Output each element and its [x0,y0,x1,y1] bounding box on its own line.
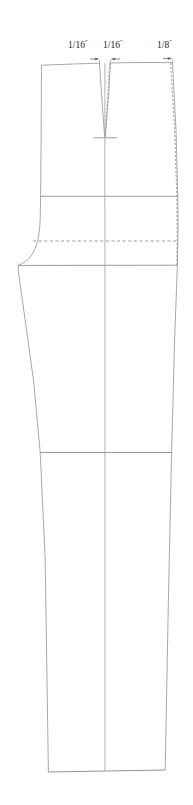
crotch-curve [18,219,40,265]
dimension-value-side-seam: 1/8 [157,40,169,50]
waistline-right-segment [111,63,173,64]
hemline [48,770,165,772]
waistline-left-segment [42,63,100,65]
dart-leg-left [100,63,105,137]
dart-leg-right [105,63,110,137]
dimension-unit-right-dart: ″ [120,38,123,45]
diagram-canvas: 1/16″ 1/16″ 1/8″ [0,0,193,805]
dimension-value-left-dart: 1/16 [68,40,85,50]
pattern-drawing [0,0,193,805]
dimension-label-right-dart: 1/16″ [103,41,123,51]
dimension-label-left-dart: 1/16″ [68,41,88,51]
inseam-edge [18,272,48,773]
dimension-unit-left-dart: ″ [85,38,88,45]
dimension-label-side-seam: 1/8″ [157,41,172,51]
dimension-value-right-dart: 1/16 [103,40,120,50]
dimension-unit-side-seam: ″ [169,38,172,45]
